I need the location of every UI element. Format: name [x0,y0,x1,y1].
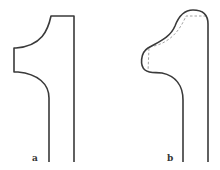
profile-a-outline [14,16,74,162]
panel-label-b: b [167,153,173,163]
panel-b: b [142,10,208,163]
panel-a: a [14,16,74,163]
profile-b-outline [142,10,208,162]
diagram-canvas: a b [0,0,220,170]
panel-label-a: a [32,153,38,163]
